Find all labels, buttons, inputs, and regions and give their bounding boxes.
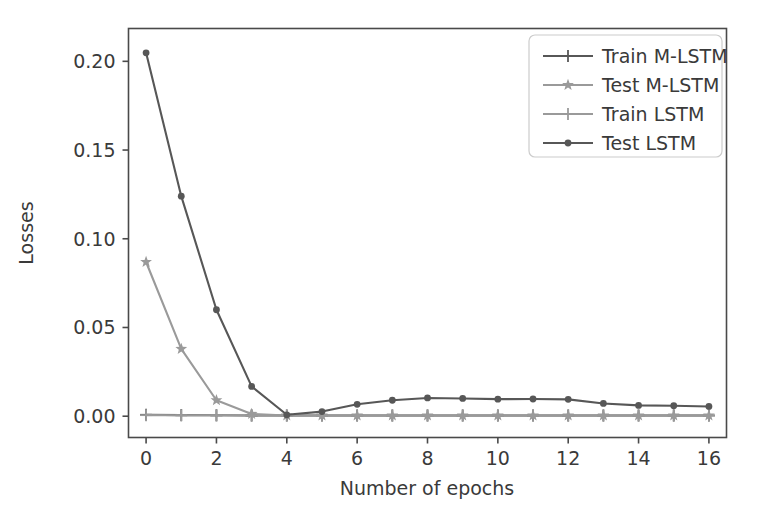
x-axis-label: Number of epochs <box>340 477 514 499</box>
y-tick-label: 0.15 <box>73 139 115 161</box>
x-tick-label: 6 <box>351 447 363 469</box>
x-tick-label: 10 <box>486 447 510 469</box>
x-tick-label: 12 <box>556 447 580 469</box>
data-marker-circle <box>635 402 642 409</box>
legend-label: Test LSTM <box>601 132 696 154</box>
x-tick-label: 16 <box>697 447 721 469</box>
data-marker-circle <box>494 396 501 403</box>
chart-figure: 0246810121416 0.000.050.100.150.20 Numbe… <box>0 0 770 521</box>
y-tick-label: 0.10 <box>73 228 115 250</box>
data-marker-circle <box>670 402 677 409</box>
data-marker-circle <box>706 403 713 410</box>
y-axis-label: Losses <box>15 201 37 264</box>
x-tick-label: 0 <box>140 447 152 469</box>
data-marker-circle <box>178 193 185 200</box>
data-marker-circle <box>248 383 255 390</box>
legend-label: Train M-LSTM <box>601 45 728 67</box>
x-tick-label: 2 <box>210 447 222 469</box>
y-tick-label: 0.00 <box>73 405 115 427</box>
data-marker-circle <box>143 49 150 56</box>
data-marker-circle <box>424 395 431 402</box>
x-tick-label: 14 <box>626 447 650 469</box>
data-marker-circle <box>459 395 466 402</box>
data-marker-circle <box>565 396 572 403</box>
data-marker-circle <box>565 140 572 147</box>
data-marker-circle <box>600 400 607 407</box>
data-marker-circle <box>354 401 361 408</box>
loss-curve-chart: 0246810121416 0.000.050.100.150.20 Numbe… <box>0 0 770 521</box>
legend-label: Test M-LSTM <box>601 74 719 96</box>
data-marker-circle <box>530 396 537 403</box>
y-tick-label: 0.20 <box>73 50 115 72</box>
x-tick-label: 8 <box>421 447 433 469</box>
x-tick-label: 4 <box>281 447 293 469</box>
legend-label: Train LSTM <box>601 103 704 125</box>
chart-legend: Train M-LSTMTest M-LSTMTrain LSTMTest LS… <box>529 35 728 157</box>
data-marker-circle <box>283 411 290 418</box>
y-tick-label: 0.05 <box>73 316 115 338</box>
data-marker-circle <box>319 408 326 415</box>
data-marker-circle <box>389 397 396 404</box>
data-marker-circle <box>213 306 220 313</box>
